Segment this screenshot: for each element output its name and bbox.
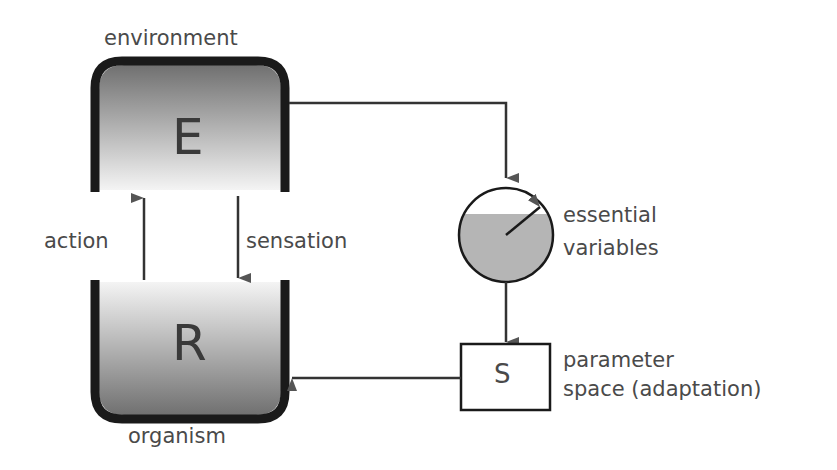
parameter-space-label-1: parameter bbox=[563, 348, 674, 372]
environment-symbol: E bbox=[172, 112, 204, 162]
environment-label: environment bbox=[104, 26, 238, 50]
action-label: action bbox=[44, 229, 109, 253]
essential-variables-gauge bbox=[455, 188, 557, 294]
organism-symbol: R bbox=[172, 318, 207, 368]
organism-label: organism bbox=[128, 424, 226, 448]
parameter-space-label-2: space (adaptation) bbox=[563, 377, 761, 401]
parameter-space-symbol: S bbox=[494, 362, 511, 386]
sensation-label: sensation bbox=[246, 229, 347, 253]
essential-variables-label-1: essential bbox=[563, 203, 657, 227]
essential-variables-label-2: variables bbox=[563, 236, 659, 260]
environment-to-variables-arrow bbox=[289, 103, 506, 178]
